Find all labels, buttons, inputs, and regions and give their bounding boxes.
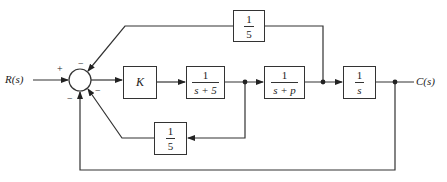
denominator: 5 — [166, 140, 176, 152]
sign-bottom: − — [67, 94, 73, 104]
denominator: s + p — [271, 84, 298, 96]
plant-block: 1s + p — [264, 66, 305, 99]
sign-right: − — [95, 86, 101, 96]
denominator: 5 — [244, 28, 254, 40]
integrator-block: 1s — [343, 66, 376, 99]
top-feedback-block: 15 — [233, 10, 265, 42]
sign-input: + — [57, 64, 63, 74]
gain-label: K — [136, 75, 144, 90]
gain-block: K — [123, 66, 157, 99]
sign-top: − — [78, 59, 84, 69]
numerator: 1 — [201, 69, 211, 81]
denominator: s — [355, 84, 363, 96]
numerator: 1 — [244, 13, 254, 25]
numerator: 1 — [280, 69, 290, 81]
numerator: 1 — [166, 125, 176, 137]
first-order-block: 1s + 5 — [186, 66, 225, 99]
input-label: R(s) — [5, 73, 23, 85]
output-label: C(s) — [416, 75, 435, 87]
denominator: s + 5 — [192, 84, 219, 96]
inner-feedback-block: 15 — [154, 122, 187, 155]
numerator: 1 — [355, 69, 365, 81]
